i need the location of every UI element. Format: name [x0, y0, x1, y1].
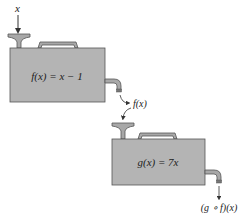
- spout-icon: [205, 170, 221, 181]
- handle-icon: [138, 133, 177, 139]
- funnel-icon: [8, 34, 30, 48]
- intermediate-arrow-in: [120, 95, 128, 103]
- composition-diagram: x f(x) = x − 1 f(x) g(x) = 7x (g ∘ f)(x): [0, 0, 246, 215]
- machine-f-label: f(x) = x − 1: [31, 70, 83, 83]
- spout-icon: [105, 79, 121, 90]
- intermediate-label: f(x): [133, 98, 148, 110]
- machine-g-label: g(x) = 7x: [137, 156, 178, 169]
- intermediate-arrow-out: [123, 108, 131, 118]
- machine-g: g(x) = 7x: [112, 123, 222, 185]
- output-label: (g ∘ f)(x): [201, 202, 238, 214]
- machine-f: f(x) = x − 1: [8, 34, 122, 102]
- funnel-icon: [112, 123, 134, 139]
- handle-icon: [38, 42, 78, 48]
- input-label: x: [14, 2, 20, 14]
